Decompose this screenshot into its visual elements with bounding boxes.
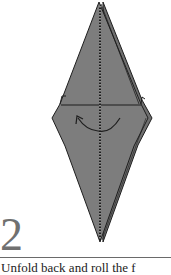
step-number: 2 (0, 212, 23, 258)
origami-diagram (0, 0, 171, 250)
divider-rule (0, 257, 171, 258)
step-caption: Unfold back and roll the f (1, 260, 136, 275)
